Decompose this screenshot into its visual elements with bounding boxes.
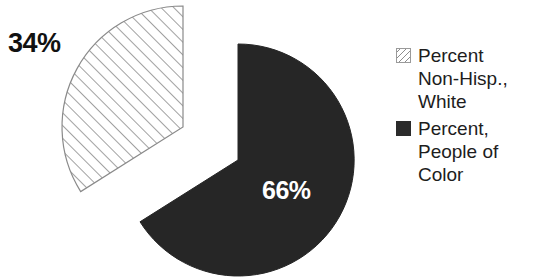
legend-label-line: Percent, bbox=[418, 118, 489, 139]
legend-label-people-of-color: Percent, People of Color bbox=[418, 117, 498, 186]
pie-chart-figure: 34% 66% Percent Non-Hisp., White Percent… bbox=[0, 0, 534, 278]
legend-label-line: Percent bbox=[418, 45, 483, 66]
slice-label-66-percent: 66% bbox=[262, 176, 311, 205]
legend-label-non-hisp-white: Percent Non-Hisp., White bbox=[418, 44, 508, 113]
legend-item-people-of-color[interactable]: Percent, People of Color bbox=[396, 117, 534, 186]
legend-label-line: Color bbox=[418, 164, 463, 185]
chart-legend: Percent Non-Hisp., White Percent, People… bbox=[396, 44, 534, 190]
legend-label-line: Non-Hisp., bbox=[418, 68, 508, 89]
solid-dark-square-swatch-icon bbox=[396, 121, 411, 136]
legend-item-non-hisp-white[interactable]: Percent Non-Hisp., White bbox=[396, 44, 534, 113]
slice-label-34-percent: 34% bbox=[8, 28, 61, 59]
pie-slice-non-hisp-white[interactable] bbox=[62, 6, 183, 192]
hatched-square-swatch-icon bbox=[396, 48, 411, 63]
legend-label-line: White bbox=[418, 91, 467, 112]
legend-label-line: People of bbox=[418, 141, 498, 162]
